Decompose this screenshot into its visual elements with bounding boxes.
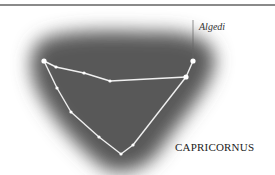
star-label-algedi: Algedi (199, 21, 225, 32)
star-s3 (82, 71, 85, 74)
star-s1 (41, 58, 46, 63)
star-s8 (69, 110, 72, 113)
star-s9 (97, 135, 100, 138)
star-s4 (108, 79, 111, 82)
star-s7 (55, 86, 58, 89)
star-s5 (183, 74, 188, 79)
star-s2 (54, 65, 57, 68)
star-algedi (190, 58, 195, 63)
star-s10 (119, 152, 122, 155)
star-s11 (131, 143, 134, 146)
constellation-name: CAPRICORNUS (175, 141, 254, 153)
